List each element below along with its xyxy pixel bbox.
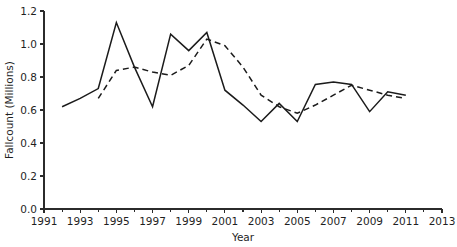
y-tick-label: 0.6	[20, 104, 37, 116]
chart-figure: 0.00.20.40.60.81.01.2 199119931995199719…	[0, 0, 457, 247]
line-chart: 0.00.20.40.60.81.01.2 199119931995199719…	[0, 0, 457, 247]
y-axis-title: Fallcount (Millions)	[3, 61, 15, 159]
x-tick-label: 2013	[429, 215, 456, 227]
x-axis-tick-labels: 1991199319951997199920012003200520072009…	[31, 215, 456, 227]
x-axis-ticks	[44, 209, 442, 213]
x-tick-label: 2007	[320, 215, 347, 227]
x-tick-label: 1999	[175, 215, 202, 227]
series-line-solid	[62, 23, 406, 122]
y-tick-label: 0.4	[20, 137, 37, 149]
x-tick-label: 1997	[139, 215, 166, 227]
x-tick-label: 2001	[212, 215, 239, 227]
x-tick-label: 2003	[248, 215, 275, 227]
y-tick-label: 0.0	[20, 203, 37, 215]
x-tick-label: 1995	[103, 215, 130, 227]
x-axis-title: Year	[231, 231, 255, 243]
x-tick-label: 1991	[31, 215, 58, 227]
y-tick-label: 0.2	[20, 170, 37, 182]
y-tick-label: 1.0	[20, 38, 37, 50]
y-tick-label: 1.2	[20, 5, 37, 17]
x-tick-label: 2009	[356, 215, 383, 227]
x-tick-label: 2011	[392, 215, 419, 227]
y-tick-label: 0.8	[20, 71, 37, 83]
y-axis-ticks	[40, 11, 44, 209]
x-tick-label: 2005	[284, 215, 311, 227]
y-axis-tick-labels: 0.00.20.40.60.81.01.2	[20, 5, 37, 215]
series-line-dashed	[98, 39, 406, 113]
x-tick-label: 1993	[67, 215, 94, 227]
